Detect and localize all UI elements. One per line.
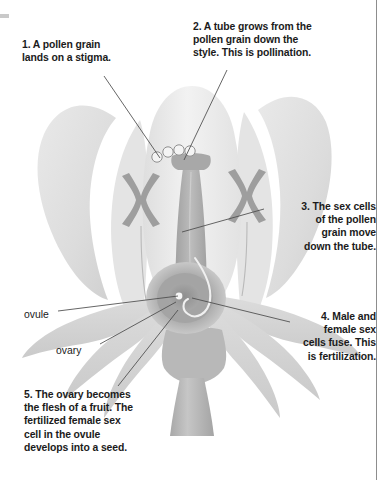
annotation-step-5: 5. The ovary becomes the flesh of a frui… [24,388,179,454]
annotation-step-3: 3. The sex cells of the pollen grain mov… [268,200,376,253]
annotation-step-1: 1. A pollen grain lands on a stigma. [22,38,157,64]
part-label-ovule: ovule [24,308,49,321]
petal-outer-left [38,105,116,300]
annotation-step-2: 2. A tube grows from the pollen grain do… [193,20,353,60]
pollen-grain-3 [174,145,184,155]
pollen-grain-2 [163,147,173,157]
receptacle [162,327,226,384]
part-label-ovary: ovary [56,344,81,357]
annotation-step-4: 4. Male and female sex cells fuse. This … [262,310,376,363]
diagram-page: 1. A pollen grain lands on a stigma. 2. … [0,0,389,480]
